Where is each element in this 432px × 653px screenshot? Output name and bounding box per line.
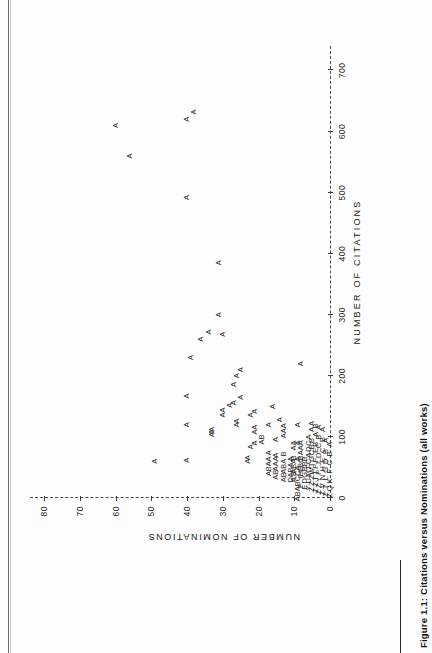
x-tick-mark — [328, 131, 333, 132]
y-axis-title: NUMBER OF NOMINATIONS — [147, 532, 300, 542]
data-point-marker: A — [276, 417, 284, 422]
data-point-marker: A — [112, 123, 120, 128]
data-point-marker: A — [294, 422, 302, 427]
data-point-marker: A — [237, 367, 245, 372]
data-point-marker: A — [205, 329, 213, 334]
rotated-plot-container: 0100200300400500600700 01020304050607080… — [0, 0, 392, 560]
data-point-marker: B — [326, 452, 334, 457]
data-point-marker: A — [251, 425, 259, 430]
data-point-marker: A — [319, 427, 327, 432]
y-tick-label: 0 — [325, 506, 335, 524]
data-point-marker: A — [219, 412, 227, 417]
data-point-marker: A — [233, 419, 241, 424]
y-tick-mark — [151, 496, 152, 501]
x-tick-label: 600 — [337, 124, 347, 140]
data-point-marker: A — [230, 382, 238, 387]
y-tick-label: 40 — [182, 506, 192, 524]
data-point-marker: A — [183, 195, 191, 200]
y-tick-mark — [80, 496, 81, 501]
y-tick-label: 80 — [39, 506, 49, 524]
data-point-marker: A — [244, 455, 252, 460]
data-point-marker: AAA — [280, 423, 288, 438]
data-point-marker: A — [187, 355, 195, 360]
data-point-marker: AB — [258, 434, 266, 444]
data-point-marker: A — [326, 442, 334, 447]
x-tick-mark — [328, 192, 333, 193]
y-tick-mark — [116, 496, 117, 501]
data-point-marker: A — [183, 393, 191, 398]
data-point-marker: A — [266, 422, 274, 427]
y-tick-mark — [259, 496, 260, 501]
y-tick-label: 70 — [75, 506, 85, 524]
data-point-marker: A — [298, 361, 306, 366]
data-point-marker: A — [216, 312, 224, 317]
y-tick-mark — [187, 496, 188, 501]
x-tick-label: 0 — [337, 495, 347, 500]
data-point-marker: A — [208, 427, 216, 432]
data-point-marker: K — [326, 478, 334, 483]
y-tick-label: 30 — [218, 506, 228, 524]
figure-caption-strip: Figure 1.1: Citations versus Nominations… — [392, 560, 432, 653]
data-point-marker: A — [251, 409, 259, 414]
y-tick-label: 50 — [146, 506, 156, 524]
data-point-marker: A — [233, 373, 241, 378]
data-point-marker: A — [198, 337, 206, 342]
x-tick-label: 300 — [337, 307, 347, 323]
x-tick-mark — [328, 436, 333, 437]
x-tick-mark — [328, 375, 333, 376]
x-tick-mark — [328, 253, 333, 254]
data-point-marker: A — [269, 404, 277, 409]
x-tick-label: 700 — [337, 63, 347, 79]
scatter-plot: 0100200300400500600700 01020304050607080… — [0, 0, 392, 560]
data-point-marker: A — [219, 332, 227, 337]
data-point-marker: A — [216, 260, 224, 265]
data-point-marker: A — [191, 109, 199, 114]
y-tick-mark — [44, 496, 45, 501]
figure-page: 0100200300400500600700 01020304050607080… — [0, 0, 432, 653]
y-tick-label: 20 — [254, 506, 264, 524]
x-tick-label: 200 — [337, 368, 347, 384]
data-point-marker: A — [126, 153, 134, 158]
y-tick-label: 60 — [111, 506, 121, 524]
data-point-marker: C — [326, 460, 334, 465]
x-axis-title: NUMBER OF CITATIONS — [352, 46, 362, 498]
data-point-marker: A — [183, 458, 191, 463]
y-tick-label: 10 — [289, 506, 299, 524]
data-point-marker: A — [151, 459, 159, 464]
data-point-marker: A — [237, 395, 245, 400]
data-point-marker: A — [230, 400, 238, 405]
x-tick-mark — [328, 314, 333, 315]
x-tick-label: 500 — [337, 185, 347, 201]
data-point-marker: A — [183, 117, 191, 122]
x-axis-line — [330, 46, 331, 498]
caption-divider-rule — [400, 560, 401, 653]
y-axis-line — [30, 497, 330, 498]
data-point-marker: F — [326, 469, 334, 474]
x-tick-mark — [328, 69, 333, 70]
figure-caption: Figure 1.1: Citations versus Nominations… — [418, 403, 429, 648]
data-point-marker: Z — [326, 493, 334, 498]
y-tick-mark — [223, 496, 224, 501]
data-point-marker: A — [183, 422, 191, 427]
data-point-marker: Q — [326, 485, 334, 491]
x-tick-label: 400 — [337, 246, 347, 262]
data-point-marker: A — [219, 408, 227, 413]
x-tick-label: 100 — [337, 429, 347, 445]
